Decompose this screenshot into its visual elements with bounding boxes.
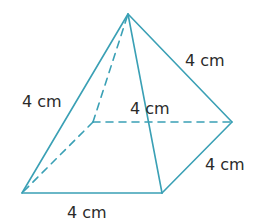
hidden-slant-edge [93, 14, 128, 122]
label-base-right: 4 cm [205, 155, 245, 174]
label-left-slant: 4 cm [22, 92, 62, 111]
label-right-slant: 4 cm [185, 51, 225, 70]
label-base-front: 4 cm [67, 203, 107, 222]
pyramid-diagram: 4 cm 4 cm 4 cm 4 cm 4 cm [0, 0, 259, 223]
label-inner-slant: 4 cm [130, 99, 170, 118]
